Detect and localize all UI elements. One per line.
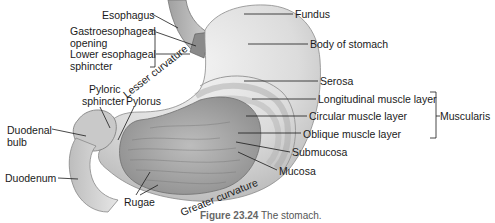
label-oblique-muscle-layer: Oblique muscle layer (303, 128, 401, 140)
label-serosa: Serosa (320, 75, 353, 87)
label-mucosa: Mucosa (279, 165, 316, 177)
figure-caption: Figure 23.24 The stomach. (200, 210, 322, 221)
label-fundus: Fundus (295, 8, 330, 20)
label-duodenal-bulb-line1: Duodenal (7, 124, 52, 136)
label-esophagus: Esophagus (102, 9, 155, 21)
label-rugae: Rugae (124, 196, 155, 208)
label-duodenal-bulb-line2: bulb (7, 136, 27, 148)
label-lower-esophageal-sphincter-line1: Lower esophageal (70, 48, 156, 60)
figure-title: The stomach. (261, 210, 322, 221)
label-duodenum: Duodenum (5, 172, 56, 184)
label-circular-muscle-layer: Circular muscle layer (309, 110, 407, 122)
label-muscularis: Muscularis (440, 110, 490, 122)
label-submucosa: Submucosa (292, 146, 347, 158)
label-lower-esophageal-sphincter-line2: sphincter (70, 60, 113, 72)
figure-number: Figure 23.24 (200, 210, 258, 221)
label-gastroesophageal-opening-line1: Gastroesophageal (70, 25, 156, 37)
label-pyloric-sphincter-line1: Pyloric (89, 83, 121, 95)
label-pyloric-sphincter-line2: sphincter (82, 95, 125, 107)
stomach-figure: Esophagus Gastroesophageal opening Lower… (0, 0, 495, 223)
label-longitudinal-muscle-layer: Longitudinal muscle layer (318, 93, 436, 105)
label-body-of-stomach: Body of stomach (310, 38, 388, 50)
